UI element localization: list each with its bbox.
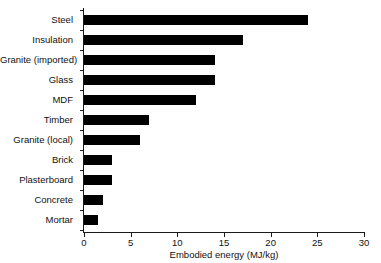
bar-row <box>84 190 364 210</box>
bar-row <box>84 30 364 50</box>
x-axis-tick-label: 25 <box>302 237 332 248</box>
bar-row <box>84 170 364 190</box>
bar-row <box>84 70 364 90</box>
bar-mdf <box>84 95 196 105</box>
y-axis-label-insulation: Insulation <box>0 30 78 50</box>
bar-row <box>84 50 364 70</box>
x-axis-tick-label: 20 <box>256 237 286 248</box>
bar-insulation <box>84 35 243 45</box>
x-axis-tick-label: 5 <box>116 237 146 248</box>
bar-granite-imported <box>84 55 215 65</box>
y-axis-label-mortar: Mortar <box>0 210 78 230</box>
plot-area <box>84 10 364 230</box>
y-axis-label-brick: Brick <box>0 150 78 170</box>
y-axis-category-labels: Steel Insulation Granite (imported) Glas… <box>0 10 78 230</box>
bar-row <box>84 210 364 230</box>
x-axis-tick-label: 15 <box>209 237 239 248</box>
y-axis-label-glass: Glass <box>0 70 78 90</box>
bar-row <box>84 150 364 170</box>
y-axis-label-timber: Timber <box>0 110 78 130</box>
x-axis-title: Embodied energy (MJ/kg) <box>84 249 364 260</box>
bar-timber <box>84 115 149 125</box>
bar-granite-local <box>84 135 140 145</box>
embodied-energy-bar-chart: Steel Insulation Granite (imported) Glas… <box>0 0 381 263</box>
x-axis-tick-label: 10 <box>162 237 192 248</box>
bar-row <box>84 110 364 130</box>
x-axis-tick-label: 30 <box>349 237 379 248</box>
bar-row <box>84 10 364 30</box>
bar-row <box>84 130 364 150</box>
bar-glass <box>84 75 215 85</box>
y-axis-label-granite-imported: Granite (imported) <box>0 50 78 70</box>
y-axis-label-concrete: Concrete <box>0 190 78 210</box>
bar-plasterboard <box>84 175 112 185</box>
y-axis-label-plasterboard: Plasterboard <box>0 170 78 190</box>
y-axis-label-granite-local: Granite (local) <box>0 130 78 150</box>
bar-steel <box>84 15 308 25</box>
bar-concrete <box>84 195 103 205</box>
y-axis-tick <box>80 230 84 231</box>
bar-series <box>84 10 364 230</box>
y-axis-label-steel: Steel <box>0 10 78 30</box>
bar-brick <box>84 155 112 165</box>
y-axis-label-mdf: MDF <box>0 90 78 110</box>
x-axis-tick-label: 0 <box>69 237 99 248</box>
bar-mortar <box>84 215 98 225</box>
bar-row <box>84 90 364 110</box>
